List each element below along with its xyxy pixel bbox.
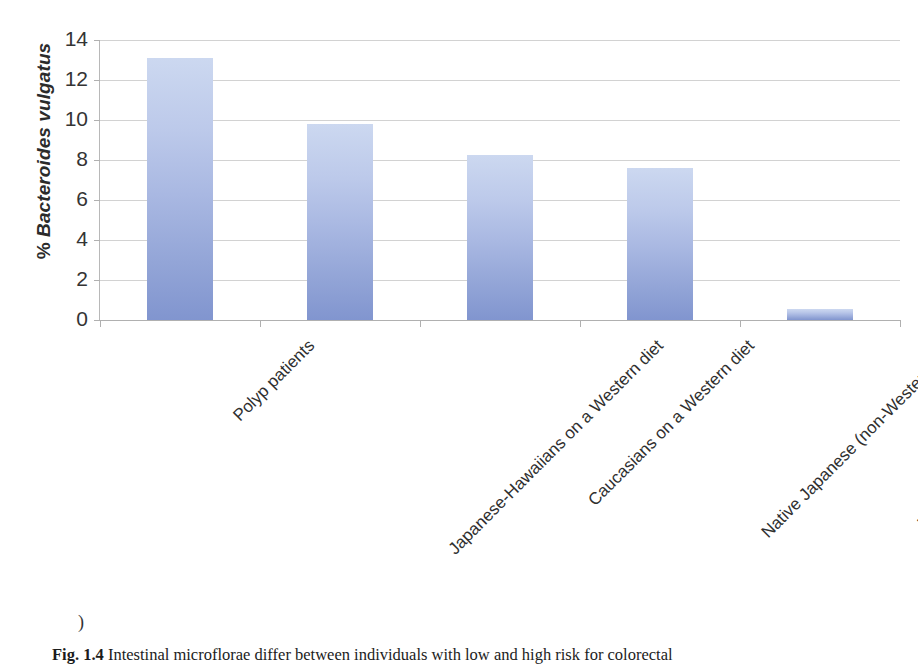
figure-caption: Fig. 1.4 Intestinal microflorae differ b… xyxy=(52,645,872,665)
y-axis-tick-label: 14 xyxy=(42,27,88,51)
cropped-text-artifact: ) xyxy=(78,612,84,633)
figure-number: Fig. 1.4 xyxy=(52,645,104,664)
y-axis-tick-label: 8 xyxy=(42,147,88,171)
x-axis-category-label: Native Africans (non-Western diet) xyxy=(914,336,918,533)
y-axis-tick-label: 4 xyxy=(42,227,88,251)
plot-area xyxy=(100,40,900,320)
gridline xyxy=(100,120,900,121)
y-axis-tick-mark xyxy=(94,200,100,201)
x-axis-tick-mark xyxy=(420,320,421,327)
y-axis-tick-mark xyxy=(94,120,100,121)
figure-caption-body: Intestinal microflorae differ between in… xyxy=(108,645,673,664)
y-axis-tick-mark xyxy=(94,40,100,41)
x-axis-tick-mark xyxy=(260,320,261,327)
gridline xyxy=(100,40,900,41)
y-axis-tick-label: 2 xyxy=(42,267,88,291)
x-axis-tick-mark xyxy=(900,320,901,327)
x-axis-tick-mark xyxy=(740,320,741,327)
bar xyxy=(307,124,373,320)
x-axis-tick-mark xyxy=(100,320,101,327)
y-axis-tick-label: 6 xyxy=(42,187,88,211)
x-axis-category-label: Caucasians on a Western diet xyxy=(584,336,758,510)
bar xyxy=(467,155,533,320)
bar xyxy=(147,58,213,320)
figure-container: % Bacteroides vulgatus 02468101214 Polyp… xyxy=(0,0,918,665)
y-axis-tick-mark xyxy=(94,80,100,81)
gridline xyxy=(100,320,900,321)
gridline xyxy=(100,80,900,81)
y-axis-tick-mark xyxy=(94,160,100,161)
y-axis-tick-label: 0 xyxy=(42,307,88,331)
y-axis-line xyxy=(99,40,100,321)
x-axis-category-label: Polyp patients xyxy=(229,336,319,426)
bar xyxy=(627,168,693,320)
x-axis-category-label: Native Japanese (non-Western diet) xyxy=(758,336,918,542)
y-axis-tick-label: 10 xyxy=(42,107,88,131)
y-axis-tick-mark xyxy=(94,240,100,241)
y-axis-tick-mark xyxy=(94,280,100,281)
x-axis-tick-mark xyxy=(580,320,581,327)
bar xyxy=(787,309,853,320)
y-axis-tick-label: 12 xyxy=(42,67,88,91)
